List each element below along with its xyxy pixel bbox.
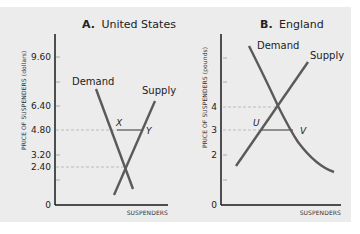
chart-b-title-prefix: B. bbox=[260, 18, 273, 31]
chart-a-supply-curve bbox=[114, 101, 155, 195]
chart-a-tick-480: 4.80 bbox=[31, 125, 51, 135]
chart-a-tick-320: 3.20 bbox=[31, 150, 51, 160]
chart-b-point-v: V bbox=[300, 126, 307, 136]
chart-b-ylabel: PRICE OF SUSPENDERS (pounds) bbox=[201, 47, 209, 148]
chart-a-tick-960: 9.60 bbox=[31, 52, 51, 62]
chart-a-title-text: United States bbox=[101, 18, 176, 31]
chart-b-tick-0: 0 bbox=[211, 200, 217, 210]
chart-a-ylabel: PRICE OF SUSPENDERS (dollars) bbox=[20, 51, 27, 150]
chart-a-tick-240: 2.40 bbox=[31, 162, 51, 172]
chart-b-title-text: England bbox=[279, 18, 324, 31]
chart-a-ticks bbox=[56, 57, 60, 180]
chart-b-tick-2: 2 bbox=[211, 150, 217, 160]
chart-b-tick-3: 3 bbox=[211, 125, 217, 135]
chart-b-supply-curve bbox=[236, 62, 308, 166]
chart-b: B. England PRICE OF SUSPENDERS (pounds) … bbox=[201, 18, 344, 216]
charts-svg: A. United States PRICE OF SUSPENDERS (do… bbox=[0, 0, 360, 234]
chart-a-point-x: X bbox=[115, 118, 123, 128]
chart-b-title: B. England bbox=[260, 18, 324, 31]
chart-a-tick-0: 0 bbox=[45, 200, 51, 210]
chart-a-point-y: Y bbox=[146, 126, 153, 136]
chart-b-xlabel: SUSPENDERS bbox=[300, 209, 341, 216]
chart-a-xlabel: SUSPENDERS bbox=[127, 209, 168, 216]
chart-b-ticks bbox=[223, 58, 227, 180]
chart-b-point-u: U bbox=[253, 118, 260, 128]
chart-b-demand-label: Demand bbox=[257, 40, 299, 51]
chart-a-title: A. United States bbox=[82, 18, 176, 31]
chart-a: A. United States PRICE OF SUSPENDERS (do… bbox=[20, 18, 176, 216]
chart-a-demand-curve bbox=[96, 89, 133, 189]
chart-a-tick-640: 6.40 bbox=[31, 101, 51, 111]
chart-a-title-prefix: A. bbox=[82, 18, 95, 31]
chart-b-demand-curve bbox=[249, 46, 334, 172]
chart-b-supply-label: Supply bbox=[310, 50, 344, 61]
chart-b-tick-4: 4 bbox=[211, 102, 217, 112]
chart-a-demand-label: Demand bbox=[72, 76, 114, 87]
chart-a-supply-label: Supply bbox=[142, 85, 176, 96]
